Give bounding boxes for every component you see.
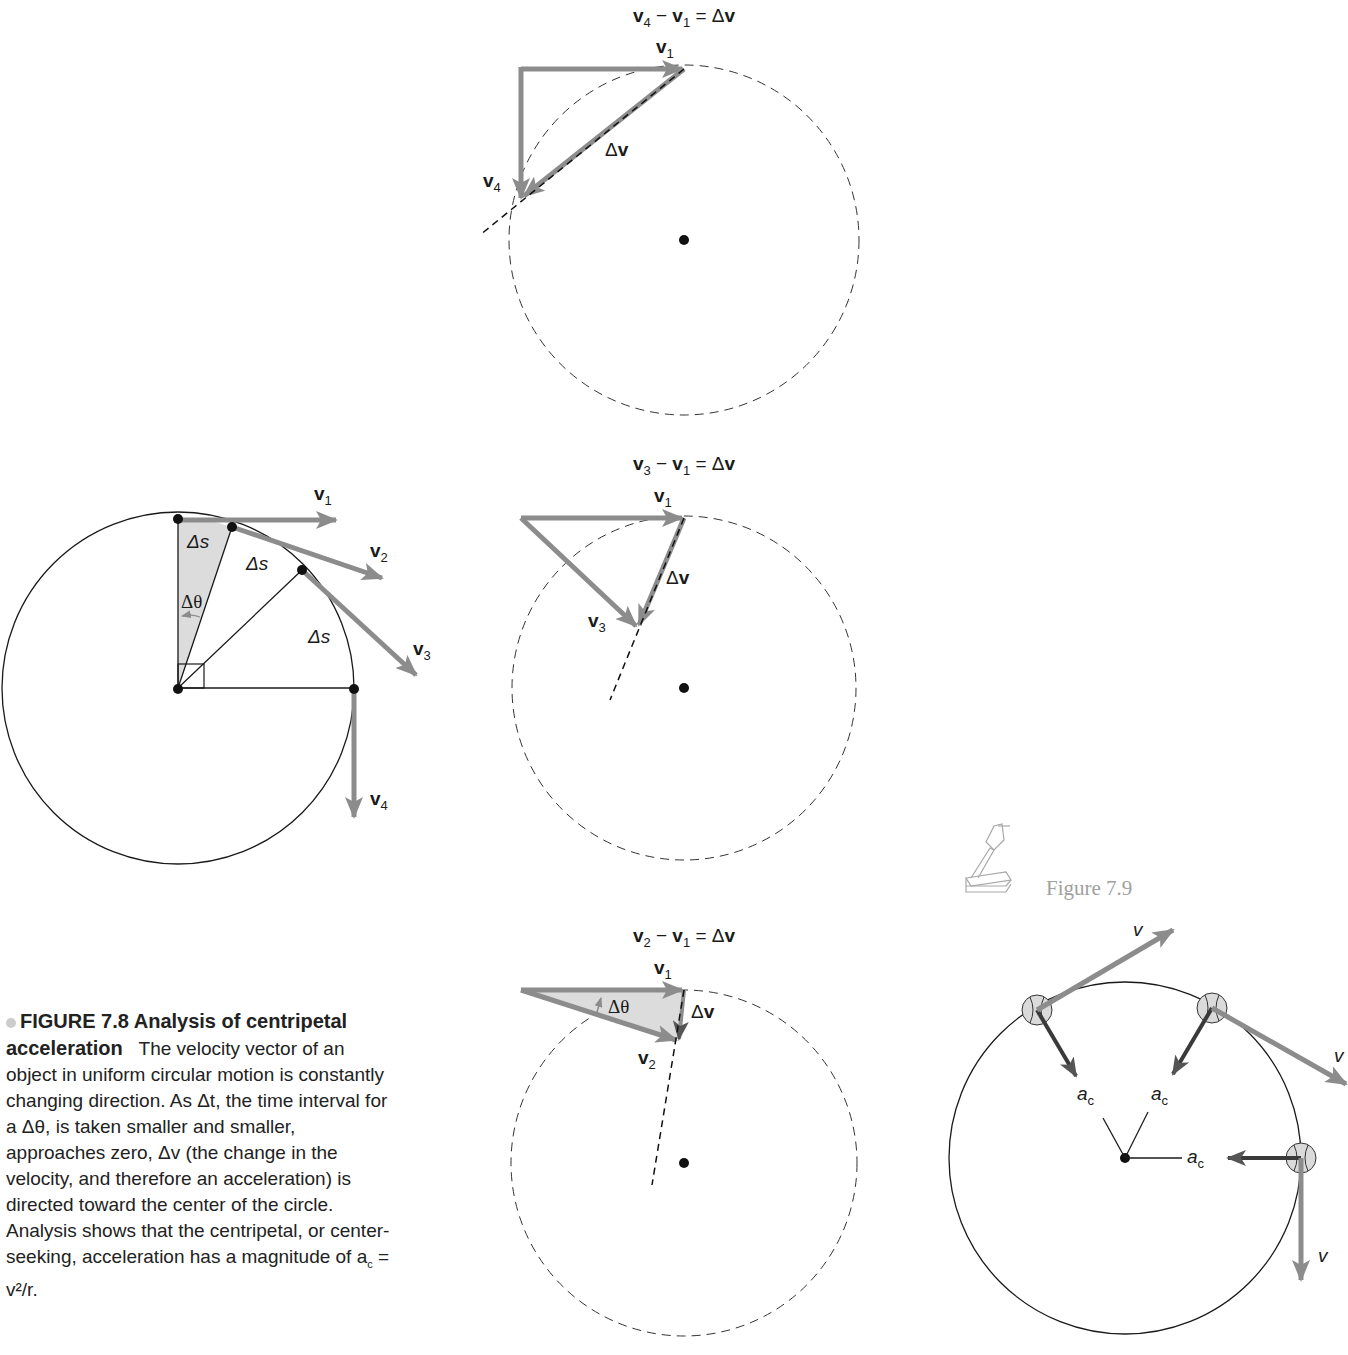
label-delta-s: Δs [186,531,210,552]
left-circle-figure: v1 v2 v3 v4 Δs Δs Δs Δθ [2,483,431,864]
label-v: v [1334,1045,1345,1066]
label-v1: v1 [656,36,674,61]
label-v1: v1 [654,957,672,982]
panel-top-v4-minus-v1: v4 − v1 = Δv v1 v4 Δv [480,5,859,415]
label-a-c: ac [1187,1146,1205,1171]
vector-v3-arrow [521,518,636,626]
point-dot [349,684,359,694]
label-v2: v2 [638,1047,656,1072]
equation-label: v3 − v1 = Δv [633,453,736,478]
label-v1: v1 [314,483,332,508]
accel-line [1125,1112,1148,1158]
accel-arrow [1037,1010,1076,1076]
accel-line [1103,1118,1125,1158]
panel-bottom-v2-minus-v1: v2 − v1 = Δv v1 v2 Δθ Δv [511,925,857,1336]
label-a-c: ac [1077,1083,1095,1108]
label-delta-theta: Δθ [608,996,629,1017]
label-v: v [1318,1245,1329,1266]
label-delta-s: Δs [245,553,269,574]
center-dot [679,235,689,245]
panel-middle-v3-minus-v1: v3 − v1 = Δv v1 v3 Δv [512,453,856,860]
label-v4: v4 [370,788,388,813]
label-v4: v4 [483,170,501,195]
figure-caption: FIGURE 7.8 Analysis of centripetal accel… [6,1008,396,1303]
equation-label: v2 − v1 = Δv [633,925,736,950]
center-dot [679,683,689,693]
point-dot [173,514,183,524]
bullet-icon [6,1018,16,1028]
point-dot [297,565,307,575]
label-delta-s: Δs [307,626,331,647]
label-v3: v3 [588,610,606,635]
velocity-arrow [1037,930,1173,1010]
label-delta-v: Δv [605,139,629,160]
right-circle-figure: v v v ac ac ac [949,919,1346,1334]
equation-label: v4 − v1 = Δv [633,5,736,30]
caption-body: The velocity vector of an object in unif… [6,1038,389,1267]
center-dot [679,1158,689,1168]
label-a-c: ac [1151,1083,1169,1108]
label-delta-v: Δv [666,567,690,588]
label-delta-v: Δv [691,1001,715,1022]
label-v3: v3 [413,638,431,663]
vector-v3-arrow [302,570,416,675]
figure-reference-label: Figure 7.9 [1046,876,1132,901]
point-dot [227,522,237,532]
accel-arrow [1173,1008,1212,1074]
label-v1: v1 [654,485,672,510]
center-dot [173,684,183,694]
overhead-projector-icon [966,824,1011,892]
label-v: v [1133,919,1144,940]
label-v2: v2 [370,540,388,565]
label-delta-theta: Δθ [181,591,202,612]
